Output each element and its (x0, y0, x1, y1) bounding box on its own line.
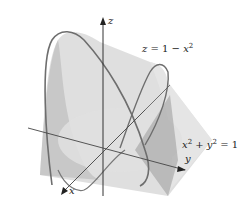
x-axis-label: x (69, 185, 75, 196)
surface-equation-label: z = 1 − x2 (141, 42, 193, 54)
solid-diagram: z x y z = 1 − x2 x2 + y2 = 1 (0, 0, 242, 205)
z-axis-label: z (107, 15, 114, 26)
y-axis-label: y (184, 153, 191, 164)
z-axis-arrowhead (100, 17, 106, 25)
